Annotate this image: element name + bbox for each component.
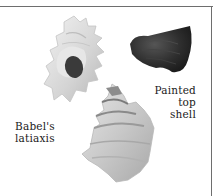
painted-top-shell — [126, 22, 196, 78]
label-babels-latiaxis-line1: Babel's — [15, 120, 55, 132]
babels-latiaxis-shell-lower — [78, 82, 160, 186]
frame-border-top — [0, 6, 213, 7]
shell-illustration: Babel's latiaxis Painted top shell — [0, 0, 215, 196]
label-babels-latiaxis: Babel's latiaxis — [15, 120, 55, 144]
frame-border-right — [211, 6, 212, 196]
label-painted-top-shell-line2: top — [154, 96, 196, 108]
label-painted-top-shell: Painted top shell — [154, 84, 196, 120]
label-babels-latiaxis-line2: latiaxis — [15, 132, 55, 144]
label-painted-top-shell-line3: shell — [154, 108, 196, 120]
label-painted-top-shell-line1: Painted — [154, 84, 196, 96]
